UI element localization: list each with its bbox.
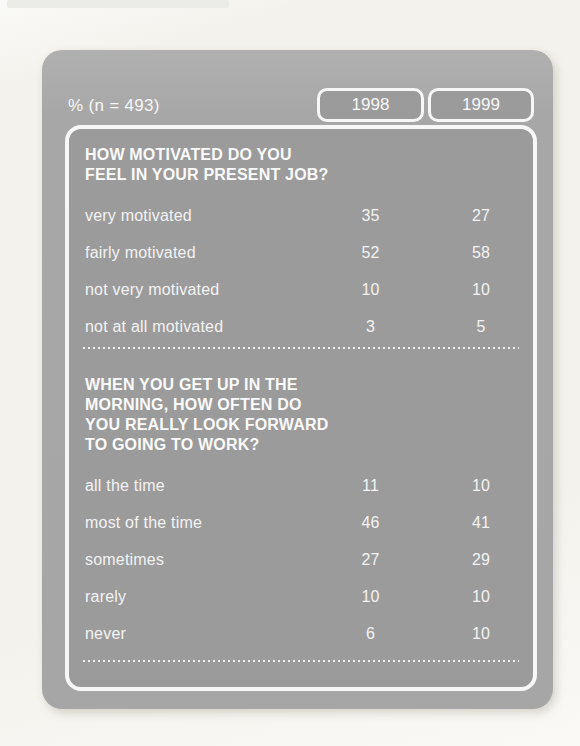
row-label: never — [85, 625, 126, 643]
table-row: most of the time 46 41 — [69, 504, 533, 541]
survey-table-figure: % (n = 493) 1998 1999 HOW MOTIVATED DO Y… — [42, 50, 553, 709]
value-1999: 10 — [428, 477, 534, 495]
row-label: most of the time — [85, 514, 202, 532]
value-1999: 5 — [428, 318, 534, 336]
row-label: all the time — [85, 477, 165, 495]
row-label: not at all motivated — [85, 318, 223, 336]
value-1998: 46 — [317, 514, 424, 532]
dotted-separator — [83, 347, 519, 349]
row-label: sometimes — [85, 551, 164, 569]
column-header-1998: 1998 — [317, 88, 424, 122]
scan-artifact-strip — [7, 0, 229, 8]
table-row: fairly motivated 52 58 — [69, 234, 533, 271]
question-2-heading: WHEN YOU GET UP IN THE MORNING, HOW OFTE… — [85, 375, 517, 455]
column-header-1998-label: 1998 — [352, 95, 390, 115]
row-label: not very motivated — [85, 281, 219, 299]
question-1-heading: HOW MOTIVATED DO YOU FEEL IN YOUR PRESEN… — [85, 145, 517, 185]
table-row: never 6 10 — [69, 615, 533, 652]
table-row: all the time 11 10 — [69, 467, 533, 504]
row-label: fairly motivated — [85, 244, 196, 262]
value-1998: 27 — [317, 551, 424, 569]
row-label: rarely — [85, 588, 126, 606]
value-1999: 27 — [428, 207, 534, 225]
value-1999: 10 — [428, 588, 534, 606]
value-1998: 3 — [317, 318, 424, 336]
column-header-1999-label: 1999 — [462, 95, 500, 115]
table-row: sometimes 27 29 — [69, 541, 533, 578]
value-1999: 10 — [428, 625, 534, 643]
table-row: not at all motivated 3 5 — [69, 308, 533, 345]
value-1998: 10 — [317, 281, 424, 299]
value-1998: 10 — [317, 588, 424, 606]
value-1999: 10 — [428, 281, 534, 299]
value-1999: 29 — [428, 551, 534, 569]
row-label: very motivated — [85, 207, 192, 225]
value-1998: 52 — [317, 244, 424, 262]
dotted-separator — [83, 660, 519, 662]
value-1999: 58 — [428, 244, 534, 262]
table-panel: HOW MOTIVATED DO YOU FEEL IN YOUR PRESEN… — [65, 125, 537, 691]
table-row: very motivated 35 27 — [69, 197, 533, 234]
table-row: not very motivated 10 10 — [69, 271, 533, 308]
value-1999: 41 — [428, 514, 534, 532]
value-1998: 11 — [317, 477, 424, 495]
value-1998: 35 — [317, 207, 424, 225]
value-1998: 6 — [317, 625, 424, 643]
page: { "colors": { "page_background": "#f4f2e… — [0, 0, 580, 746]
table-row: rarely 10 10 — [69, 578, 533, 615]
sample-size-label: % (n = 493) — [68, 96, 160, 116]
column-header-1999: 1999 — [428, 88, 534, 122]
